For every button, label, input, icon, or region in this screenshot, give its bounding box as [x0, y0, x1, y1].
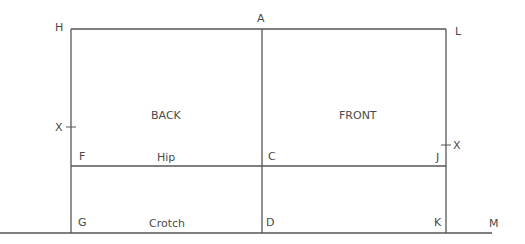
point-M: M — [489, 218, 499, 229]
panel-label-back: BACK — [151, 110, 181, 121]
panel-label-front: FRONT — [339, 110, 377, 121]
point-C: C — [268, 151, 276, 162]
point-F: F — [79, 151, 85, 162]
hip-line-label: Hip — [157, 152, 175, 163]
point-G: G — [78, 217, 87, 228]
point-H: H — [55, 22, 63, 33]
point-X-left: X — [55, 122, 63, 133]
crotch-line-label: Crotch — [149, 218, 185, 229]
point-A: A — [257, 13, 265, 24]
point-J: J — [436, 152, 439, 163]
point-D: D — [266, 217, 274, 228]
point-K: K — [434, 217, 441, 228]
point-L: L — [455, 26, 461, 37]
pattern-draft-lines — [0, 0, 525, 244]
point-X-right: X — [453, 140, 461, 151]
